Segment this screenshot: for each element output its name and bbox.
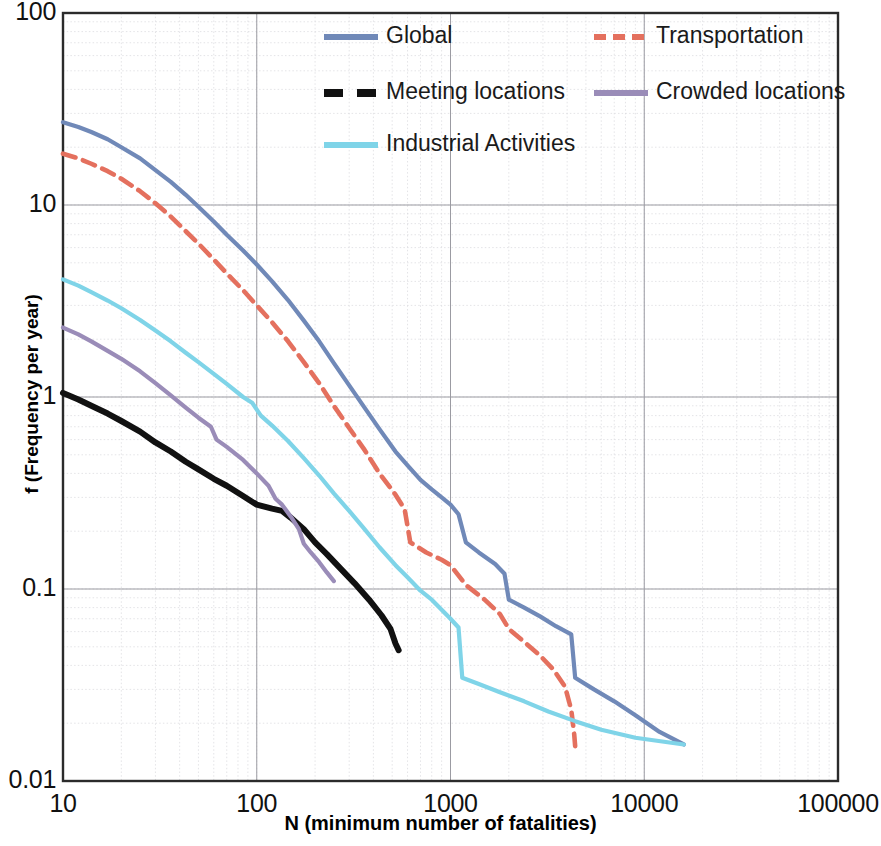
fn-curve-chart: f (Frequency per year) N (minimum number… bbox=[0, 0, 881, 846]
legend-label: Meeting locations bbox=[386, 78, 565, 105]
series-line-transportation bbox=[63, 154, 575, 746]
x-tick-10000: 10000 bbox=[564, 789, 724, 818]
legend-swatch-icon bbox=[324, 142, 378, 148]
legend-swatch-icon bbox=[594, 90, 648, 96]
legend-swatch-icon bbox=[594, 34, 648, 40]
y-tick-1: 1 bbox=[42, 381, 56, 410]
legend-label: Transportation bbox=[656, 22, 803, 49]
series-line-industrial-activities bbox=[63, 279, 684, 744]
x-tick-10: 10 bbox=[0, 789, 143, 818]
legend-label: Global bbox=[386, 22, 452, 49]
y-tick-0.1: 0.1 bbox=[22, 573, 56, 602]
x-tick-100: 100 bbox=[177, 789, 337, 818]
legend-label: Industrial Activities bbox=[386, 130, 575, 157]
y-tick-10: 10 bbox=[29, 189, 56, 218]
x-tick-1000: 1000 bbox=[371, 789, 531, 818]
series-line-global bbox=[63, 122, 684, 744]
legend-label: Crowded locations bbox=[656, 78, 845, 105]
plot-canvas bbox=[0, 0, 881, 846]
major-gridlines bbox=[63, 13, 838, 781]
series-line-meeting-locations bbox=[63, 393, 399, 650]
legend-swatch-icon bbox=[324, 34, 378, 40]
legend-swatch-icon bbox=[324, 89, 378, 97]
y-axis-label: f (Frequency per year) bbox=[21, 244, 43, 544]
y-tick-100: 100 bbox=[15, 0, 56, 26]
x-tick-100000: 100000 bbox=[758, 789, 881, 818]
